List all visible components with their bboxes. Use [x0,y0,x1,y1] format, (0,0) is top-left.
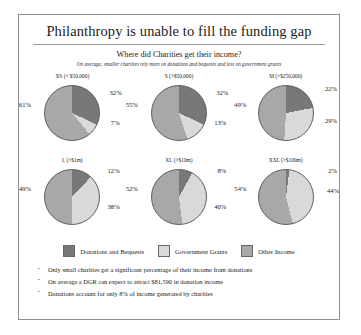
pie-chart-s: S (>$50,000)32%13%55% [126,73,233,155]
pie-value-s-0: 32% [216,89,228,96]
pie-value-xs-0: 32% [110,89,122,96]
page-title: Philanthropy is unable to fill the fundi… [19,23,339,40]
pie-disc-xl [151,169,207,225]
pie-value-xl-0: 8% [218,167,227,174]
pie-value-xxl-2: 54% [234,185,246,192]
pie-value-xl-2: 52% [126,185,138,192]
pie-label-xl: XL (>$10m) [126,157,233,163]
pie-value-m-2: 49% [234,101,246,108]
pie-chart-xl: XL (>$10m)8%40%52% [126,157,233,239]
pie-disc-xxl [258,169,314,225]
chart-subtitle: Where did Charities get their income? [19,50,339,59]
pie-value-l-2: 49% [19,185,31,192]
legend-swatch-donations [63,245,75,257]
pie-value-m-1: 29% [325,117,337,124]
pie-value-l-1: 38% [108,203,120,210]
pie-chart-grid: XS (< $50,000)32%7%61%S (>$50,000)32%13%… [19,73,339,239]
chart-note: On average, smaller charities rely more … [19,61,339,67]
legend-swatch-other [241,245,253,257]
takeaway-item: Donations account for only 8% of income … [37,288,339,300]
legend-label-other: Other Income [258,248,294,255]
pie-disc-s [151,85,207,141]
pie-chart-xs: XS (< $50,000)32%7%61% [19,73,126,155]
pie-value-s-2: 55% [126,101,138,108]
takeaway-item: On average a DGR can expect to attract $… [37,276,339,288]
legend-item-donations[interactable]: Donations and Bequests [63,245,144,257]
pie-chart-l: L (>$1m)12%38%49% [19,157,126,239]
takeaway-item: Only small charities get a significant p… [37,264,339,276]
pie-value-s-1: 13% [214,119,226,126]
pie-value-xs-2: 61% [19,101,31,108]
pie-value-l-0: 12% [108,167,120,174]
pie-label-xs: XS (< $50,000) [19,73,126,79]
legend-item-government[interactable]: Government Grants [158,245,227,257]
pie-label-m: M (>$250,000) [232,73,339,79]
legend-label-donations: Donations and Bequests [80,248,144,255]
chart-legend: Donations and BequestsGovernment GrantsO… [19,245,339,257]
takeaway-list: Only small charities get a significant p… [37,264,339,300]
legend-swatch-government [158,245,170,257]
legend-item-other[interactable]: Other Income [241,245,294,257]
pie-chart-m: M (>$250,000)22%29%49% [232,73,339,155]
pie-chart-xxl: XXL (>$100m)2%44%54% [232,157,339,239]
title-divider [33,44,325,45]
pie-disc-m [258,85,314,141]
pie-disc-l [44,169,100,225]
legend-label-government: Government Grants [175,248,227,255]
pie-label-s: S (>$50,000) [126,73,233,79]
pie-value-xxl-1: 44% [327,187,339,194]
pie-value-m-0: 22% [325,85,337,92]
pie-value-xxl-0: 2% [328,167,337,174]
pie-label-xxl: XXL (>$100m) [232,157,339,163]
pie-value-xs-1: 7% [111,119,120,126]
slide-frame: Philanthropy is unable to fill the fundi… [18,14,340,320]
pie-disc-xs [44,85,100,141]
pie-value-xl-1: 40% [214,203,226,210]
pie-label-l: L (>$1m) [19,157,126,163]
title-block: Philanthropy is unable to fill the fundi… [19,15,339,45]
